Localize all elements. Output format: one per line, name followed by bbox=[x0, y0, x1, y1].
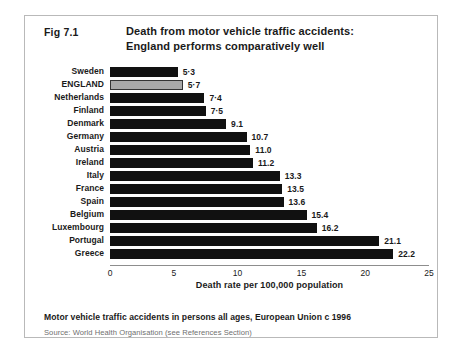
x-axis-tick: 20 bbox=[360, 268, 369, 278]
bar bbox=[110, 145, 250, 155]
bar-row: Luxembourg16.2 bbox=[25, 222, 437, 235]
bar-track: 11.2 bbox=[110, 158, 429, 168]
bar-category-label: Germany bbox=[25, 131, 104, 142]
bar-value-label: 13.6 bbox=[289, 197, 306, 207]
bar bbox=[110, 132, 247, 142]
bar-track: 5·7 bbox=[110, 80, 429, 90]
bar-row: Belgium15.4 bbox=[25, 209, 437, 222]
bar-row: Netherlands7·4 bbox=[25, 92, 437, 105]
bar-chart-plot: Sweden5·3ENGLAND5·7Netherlands7·4Finland… bbox=[25, 66, 437, 261]
figure-number: Fig 7.1 bbox=[44, 26, 79, 38]
bar-category-label: Austria bbox=[25, 144, 104, 155]
bar-row: Italy13.3 bbox=[25, 170, 437, 183]
bar-track: 13.5 bbox=[110, 184, 429, 194]
bar-category-label: Belgium bbox=[25, 209, 104, 220]
bar-value-label: 13.5 bbox=[287, 184, 304, 194]
bar bbox=[110, 184, 282, 194]
x-axis-title: Death rate per 100,000 population bbox=[110, 280, 429, 290]
figure-title-line-1: Death from motor vehicle traffic acciden… bbox=[126, 24, 354, 39]
bar-track: 13.3 bbox=[110, 171, 429, 181]
bar bbox=[110, 93, 204, 103]
bar-value-label: 11.0 bbox=[255, 145, 271, 155]
bar-row: Austria11.0 bbox=[25, 144, 437, 157]
bar-category-label: France bbox=[25, 183, 104, 194]
figure-source: Source: World Health Organisation (see R… bbox=[44, 328, 423, 337]
bar-value-label: 21.1 bbox=[384, 236, 401, 246]
bar-category-label: Greece bbox=[25, 248, 104, 259]
bar-value-label: 16.2 bbox=[322, 223, 339, 233]
figure-frame: Fig 7.1 Death from motor vehicle traffic… bbox=[24, 15, 438, 338]
bar-value-label: 13.3 bbox=[285, 171, 302, 181]
figure-title-line-2: England performs comparatively well bbox=[126, 39, 354, 54]
bar-track: 16.2 bbox=[110, 223, 429, 233]
bar bbox=[110, 223, 317, 233]
bar-category-label: Spain bbox=[25, 196, 104, 207]
bar-value-label: 22.2 bbox=[398, 249, 415, 259]
x-axis-tick: 5 bbox=[171, 268, 176, 278]
bar-row: ENGLAND5·7 bbox=[25, 79, 437, 92]
bar-row: Ireland11.2 bbox=[25, 157, 437, 170]
bar-category-label: Ireland bbox=[25, 157, 104, 168]
x-axis-tick: 0 bbox=[108, 268, 113, 278]
bar-track: 7·4 bbox=[110, 93, 429, 103]
x-axis-line bbox=[110, 265, 429, 266]
bar-row: Greece22.2 bbox=[25, 248, 437, 261]
x-axis-tick: 25 bbox=[424, 268, 433, 278]
bar bbox=[110, 210, 307, 220]
bar bbox=[110, 197, 284, 207]
bar bbox=[110, 171, 280, 181]
bar-value-label: 5·7 bbox=[188, 80, 200, 90]
bar-track: 22.2 bbox=[110, 249, 429, 259]
bar-track: 15.4 bbox=[110, 210, 429, 220]
bar-value-label: 5·3 bbox=[183, 67, 195, 77]
bar-track: 7·5 bbox=[110, 106, 429, 116]
bar-category-label: Luxembourg bbox=[25, 222, 104, 233]
bar-category-label: Sweden bbox=[25, 66, 104, 77]
bar-track: 10.7 bbox=[110, 132, 429, 142]
bar-value-label: 10.7 bbox=[252, 132, 269, 142]
bar-track: 5·3 bbox=[110, 67, 429, 77]
bar-row: Germany10.7 bbox=[25, 131, 437, 144]
bar-value-label: 15.4 bbox=[312, 210, 329, 220]
bar-track: 13.6 bbox=[110, 197, 429, 207]
figure-title: Death from motor vehicle traffic acciden… bbox=[126, 24, 354, 53]
bar-value-label: 11.2 bbox=[258, 158, 274, 168]
bar bbox=[110, 249, 393, 259]
bar-category-label: Netherlands bbox=[25, 92, 104, 103]
x-axis-tick: 15 bbox=[297, 268, 306, 278]
bar bbox=[110, 119, 226, 129]
bar-track: 11.0 bbox=[110, 145, 429, 155]
x-axis-tick: 10 bbox=[233, 268, 242, 278]
bar-track: 21.1 bbox=[110, 236, 429, 246]
bar-category-label: Italy bbox=[25, 170, 104, 181]
bar-category-label: Portugal bbox=[25, 235, 104, 246]
bar bbox=[110, 158, 253, 168]
bar-category-label: ENGLAND bbox=[25, 79, 104, 90]
bar-row: Finland7·5 bbox=[25, 105, 437, 118]
bar bbox=[110, 106, 206, 116]
bar bbox=[110, 236, 379, 246]
bar-track: 9.1 bbox=[110, 119, 429, 129]
bar-value-label: 7·5 bbox=[211, 106, 223, 116]
bar bbox=[110, 80, 183, 90]
bar-row: Portugal21.1 bbox=[25, 235, 437, 248]
bar-value-label: 7·4 bbox=[209, 93, 221, 103]
bar-category-label: Denmark bbox=[25, 118, 104, 129]
bar-row: Denmark9.1 bbox=[25, 118, 437, 131]
bar bbox=[110, 67, 178, 77]
bar-category-label: Finland bbox=[25, 105, 104, 116]
bar-row: Spain13.6 bbox=[25, 196, 437, 209]
x-axis: Death rate per 100,000 population 051015… bbox=[110, 265, 429, 295]
bar-row: France13.5 bbox=[25, 183, 437, 196]
figure-caption: Motor vehicle traffic accidents in perso… bbox=[44, 312, 423, 322]
bar-value-label: 9.1 bbox=[231, 119, 243, 129]
bar-row: Sweden5·3 bbox=[25, 66, 437, 79]
